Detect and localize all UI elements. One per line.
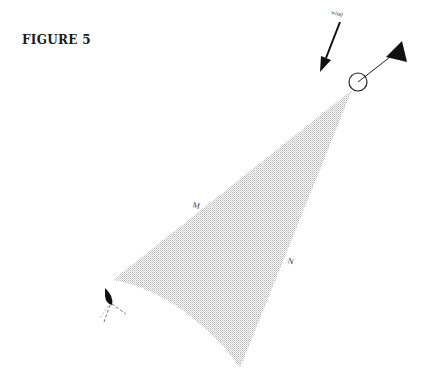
wind-arrow-icon — [320, 22, 340, 72]
shaded-sector — [113, 90, 352, 368]
label-n: N — [287, 256, 295, 266]
wind-label: wind — [330, 9, 343, 18]
sailing-diagram: wind M N — [0, 0, 427, 380]
flag-icon — [358, 41, 407, 82]
label-m: M — [192, 200, 201, 211]
boat-icon — [100, 288, 126, 322]
